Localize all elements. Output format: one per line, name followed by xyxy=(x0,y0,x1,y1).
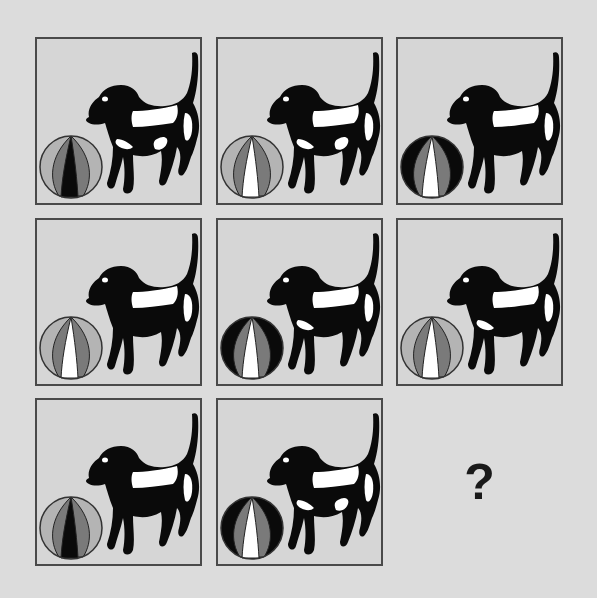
dog-ball-illustration xyxy=(37,39,200,203)
dog-figure xyxy=(267,413,380,554)
dog-figure xyxy=(86,52,199,193)
dog-figure xyxy=(447,52,560,193)
puzzle-cell-r2c1 xyxy=(35,218,202,386)
dog-eye xyxy=(283,458,289,463)
puzzle-cell-r2c2 xyxy=(216,218,383,386)
dog-ball-illustration xyxy=(398,39,561,203)
question-mark: ? xyxy=(464,457,495,507)
dog-ball-illustration xyxy=(218,39,381,203)
puzzle-grid: ? xyxy=(35,37,563,569)
dog-figure xyxy=(267,52,380,193)
puzzle-cell-r1c3 xyxy=(396,37,563,205)
dog-eye xyxy=(102,97,108,102)
puzzle-cell-r2c3 xyxy=(396,218,563,386)
striped-ball xyxy=(221,497,283,559)
dog-figure xyxy=(267,233,380,374)
puzzle-cell-r1c1 xyxy=(35,37,202,205)
striped-ball xyxy=(40,317,102,379)
dog-ball-illustration xyxy=(218,220,381,384)
dog-eye xyxy=(283,278,289,283)
dog-figure xyxy=(447,233,560,374)
dog-ball-illustration xyxy=(218,400,381,564)
striped-ball xyxy=(401,317,463,379)
striped-ball xyxy=(40,136,102,198)
striped-ball xyxy=(221,317,283,379)
striped-ball xyxy=(40,497,102,559)
dog-ball-illustration xyxy=(37,220,200,384)
dog-figure xyxy=(86,233,199,374)
dog-ball-illustration xyxy=(37,400,200,564)
striped-ball xyxy=(401,136,463,198)
dog-ball-illustration xyxy=(398,220,561,384)
missing-cell: ? xyxy=(396,398,563,566)
dog-eye xyxy=(463,278,469,283)
puzzle-cell-r3c1 xyxy=(35,398,202,566)
puzzle-cell-r3c2 xyxy=(216,398,383,566)
dog-eye xyxy=(102,278,108,283)
puzzle-cell-r1c2 xyxy=(216,37,383,205)
dog-eye xyxy=(283,97,289,102)
dog-eye xyxy=(102,458,108,463)
dog-eye xyxy=(463,97,469,102)
dog-figure xyxy=(86,413,199,554)
striped-ball xyxy=(221,136,283,198)
